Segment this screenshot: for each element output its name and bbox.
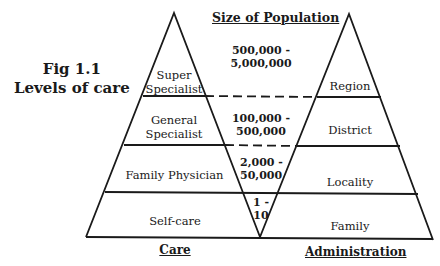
population-line: 10 xyxy=(252,209,270,222)
care-level-super-specialist: Super Specialist xyxy=(140,68,208,96)
figure-number: Fig 1.1 xyxy=(14,60,130,79)
admin-level-district: District xyxy=(322,123,378,137)
administration-header: Administration xyxy=(305,245,405,259)
population-header: Size of Population xyxy=(212,11,339,25)
population-line: 100,000 - xyxy=(230,112,292,125)
care-label-line: General xyxy=(135,113,213,127)
figure-caption: Fig 1.1 Levels of care xyxy=(14,60,130,98)
care-label-line: Super xyxy=(140,68,208,82)
base-line xyxy=(86,237,433,239)
care-level-self-care: Self-care xyxy=(135,214,215,228)
admin-level-region: Region xyxy=(325,79,375,93)
admin-level-locality: Locality xyxy=(320,175,380,189)
population-range-family: 1 - 10 xyxy=(252,196,270,222)
care-level-family-physician: Family Physician xyxy=(112,168,237,182)
population-line: 5,000,000 xyxy=(226,57,296,70)
care-label-line: Specialist xyxy=(135,127,213,141)
admin-level-family: Family xyxy=(325,219,375,233)
population-line: 1 - xyxy=(252,196,270,209)
population-range-region: 500,000 - 5,000,000 xyxy=(226,44,296,70)
population-line: 500,000 xyxy=(230,125,292,138)
population-line: 2,000 - xyxy=(240,156,282,169)
population-range-district: 100,000 - 500,000 xyxy=(230,112,292,138)
care-header: Care xyxy=(155,243,195,257)
care-label-line: Specialist xyxy=(140,82,208,96)
population-range-locality: 2,000 - 50,000 xyxy=(240,156,282,182)
population-line: 500,000 - xyxy=(226,44,296,57)
care-level-general-specialist: General Specialist xyxy=(135,113,213,141)
population-line: 50,000 xyxy=(240,169,282,182)
figure-title: Levels of care xyxy=(14,79,130,98)
